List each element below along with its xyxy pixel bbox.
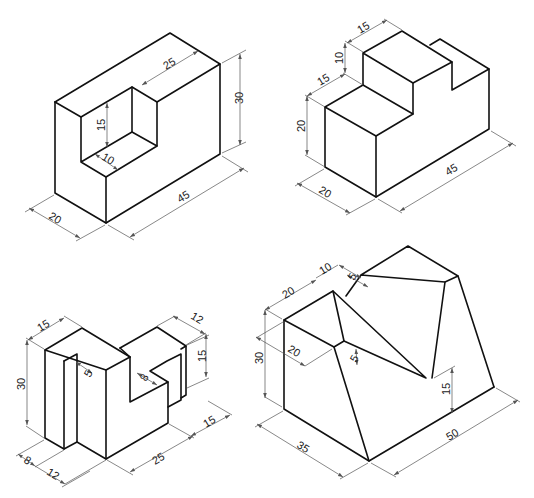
dim-20: 20: [47, 209, 64, 226]
dim-15-mid: 15: [315, 71, 332, 88]
drawing-canvas: 25 30 15 10 20 45 15: [0, 0, 534, 498]
dim-15: 15: [440, 383, 452, 395]
dim-45: 45: [175, 188, 192, 205]
dim-10: 10: [100, 150, 117, 167]
dim-20-vertical: 20: [295, 120, 307, 132]
dim-8-bottom: 8: [22, 453, 33, 466]
dim-10: 10: [333, 52, 345, 64]
dim-15-top: 15: [35, 317, 52, 334]
dim-10: 10: [317, 260, 334, 277]
dim-15-bottom: 15: [201, 413, 218, 430]
dim-50: 50: [444, 426, 461, 443]
dim-15-top: 15: [355, 19, 372, 36]
dim-30: 30: [15, 378, 27, 390]
dim-30: 30: [233, 92, 245, 104]
dim-15: 15: [95, 119, 107, 131]
dim-35: 35: [295, 438, 312, 455]
dim-45: 45: [443, 161, 460, 178]
dim-25: 25: [161, 55, 178, 72]
figure-stepped-block: 15 10 15 20 20 45: [295, 19, 516, 215]
dim-12-bottom: 12: [45, 465, 62, 482]
dim-12-top: 12: [189, 309, 206, 326]
figure-l-bracket: 15 30 5 12 15 8 15 25 8: [15, 309, 232, 487]
dim-8-inner: 8: [137, 372, 150, 383]
figure-block-with-slot: 25 30 15 10 20 45: [25, 33, 248, 241]
dim-20-top: 20: [280, 284, 297, 301]
figure-chamfered-block: 10 20 5 30 20 5 15 35 50: [253, 246, 520, 479]
dim-20-depth: 20: [317, 183, 334, 200]
dim-30: 30: [253, 352, 265, 364]
dim-5: 5: [81, 368, 94, 379]
dim-5-inner: 5: [347, 353, 360, 364]
dim-15-right: 15: [196, 350, 208, 362]
